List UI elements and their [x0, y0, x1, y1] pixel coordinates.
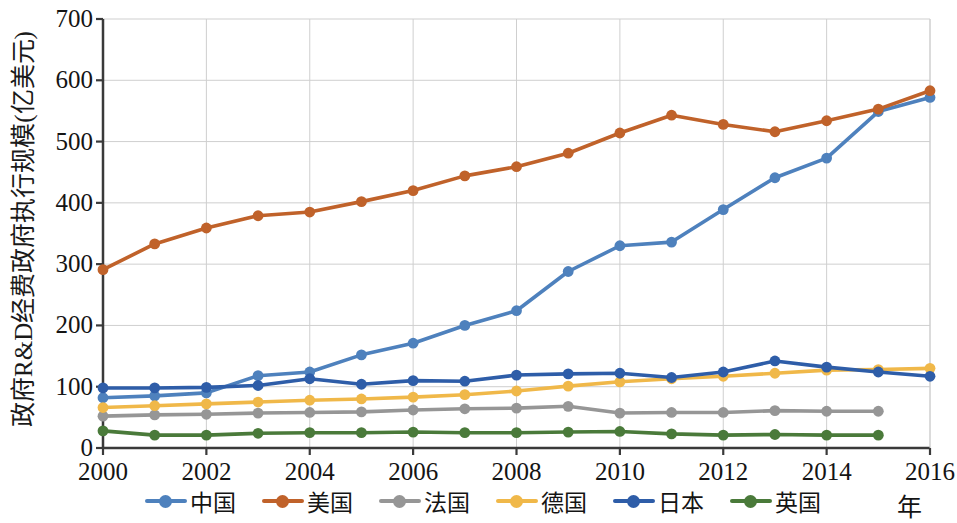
data-point — [459, 320, 470, 331]
data-point — [98, 425, 109, 436]
data-point — [563, 401, 574, 412]
data-point — [821, 430, 832, 441]
data-point — [459, 389, 470, 400]
data-point — [614, 128, 625, 139]
data-point — [821, 362, 832, 373]
data-point — [408, 392, 419, 403]
data-point — [925, 85, 936, 96]
data-point — [149, 400, 160, 411]
x-tick-label: 2002 — [166, 459, 246, 484]
data-point — [356, 379, 367, 390]
data-point — [511, 305, 522, 316]
data-point — [98, 264, 109, 275]
data-point — [253, 380, 264, 391]
x-tick-label: 2006 — [373, 459, 453, 484]
y-tick-label: 300 — [33, 251, 93, 276]
series-line — [103, 431, 878, 435]
y-tick-label: 100 — [33, 374, 93, 399]
legend-marker-icon — [730, 493, 772, 509]
legend-item-中国[interactable]: 中国 — [145, 484, 236, 518]
legend-item-label: 中国 — [190, 484, 236, 518]
y-tick-label: 0 — [33, 435, 93, 460]
data-point — [821, 153, 832, 164]
data-point — [408, 405, 419, 416]
data-point — [253, 428, 264, 439]
data-point — [563, 148, 574, 159]
legend-item-法国[interactable]: 法国 — [379, 484, 470, 518]
y-tick-label: 500 — [33, 129, 93, 154]
data-point — [201, 398, 212, 409]
y-tick-label: 200 — [33, 312, 93, 337]
data-point — [408, 185, 419, 196]
data-point — [614, 426, 625, 437]
data-point — [873, 104, 884, 115]
data-point — [511, 161, 522, 172]
data-point — [459, 376, 470, 387]
data-point — [873, 367, 884, 378]
data-point — [201, 223, 212, 234]
data-point — [770, 429, 781, 440]
data-point — [408, 375, 419, 386]
data-point — [408, 338, 419, 349]
data-point — [98, 402, 109, 413]
data-point — [770, 405, 781, 416]
legend-item-德国[interactable]: 德国 — [496, 484, 587, 518]
y-tick-label: 600 — [33, 67, 93, 92]
data-point — [666, 429, 677, 440]
data-point — [666, 407, 677, 418]
data-point — [459, 170, 470, 181]
data-point — [873, 406, 884, 417]
data-point — [511, 427, 522, 438]
data-point — [614, 240, 625, 251]
legend-item-日本[interactable]: 日本 — [613, 484, 704, 518]
data-point — [98, 392, 109, 403]
data-point — [149, 430, 160, 441]
y-tick-label: 700 — [33, 6, 93, 31]
data-point — [149, 383, 160, 394]
data-point — [666, 372, 677, 383]
data-point — [718, 367, 729, 378]
data-point — [304, 207, 315, 218]
data-point — [253, 210, 264, 221]
data-point — [304, 395, 315, 406]
y-tick-label: 400 — [33, 190, 93, 215]
legend-marker-icon — [613, 493, 655, 509]
legend-item-label: 英国 — [775, 484, 821, 518]
x-axis-unit-label: 年 — [897, 487, 922, 523]
legend-marker-icon — [496, 493, 538, 509]
data-point — [718, 119, 729, 130]
x-tick-label: 2014 — [787, 459, 867, 484]
data-point — [770, 368, 781, 379]
data-point — [511, 403, 522, 414]
data-point — [98, 383, 109, 394]
x-tick-label: 2004 — [270, 459, 350, 484]
series-英国 — [98, 425, 884, 440]
x-tick-label: 2008 — [477, 459, 557, 484]
data-point — [356, 406, 367, 417]
legend-item-英国[interactable]: 英国 — [730, 484, 821, 518]
series-line — [103, 406, 878, 416]
data-point — [304, 427, 315, 438]
data-point — [563, 266, 574, 277]
data-point — [149, 239, 160, 250]
data-point — [718, 204, 729, 215]
data-point — [459, 427, 470, 438]
data-point — [873, 430, 884, 441]
x-tick-label: 2010 — [580, 459, 660, 484]
legend-item-label: 美国 — [307, 484, 353, 518]
data-point — [925, 371, 936, 382]
data-point — [821, 115, 832, 126]
data-point — [718, 430, 729, 441]
x-tick-label: 2000 — [63, 459, 143, 484]
legend-item-美国[interactable]: 美国 — [262, 484, 353, 518]
data-point — [666, 237, 677, 248]
legend-marker-icon — [262, 493, 304, 509]
data-point — [563, 427, 574, 438]
data-point — [253, 370, 264, 381]
data-point — [770, 172, 781, 183]
x-tick-label: 2012 — [683, 459, 763, 484]
data-point — [356, 394, 367, 405]
data-point — [149, 410, 160, 421]
